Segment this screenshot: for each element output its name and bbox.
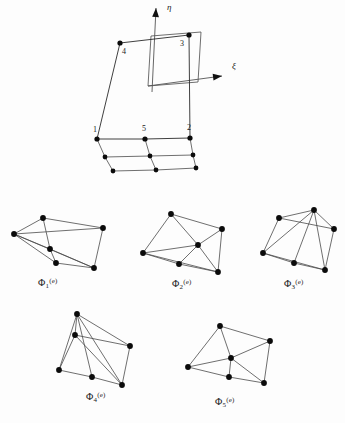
main-node-label-3: 3: [180, 39, 184, 48]
phi1-edge-1: [43, 218, 103, 228]
phi5-node-n3: [267, 338, 273, 344]
phi4-edge-4: [122, 346, 130, 385]
phi4-edge-2: [59, 370, 92, 377]
main-node-label-4: 4: [122, 47, 126, 56]
phi1-edge-0: [14, 218, 43, 234]
phi3-node-n2: [276, 215, 282, 221]
phi1-node-n4: [100, 225, 106, 231]
phi5-edge-1: [220, 326, 270, 341]
main-node-label-2: 2: [187, 123, 191, 132]
prism-node-0-1: [148, 154, 153, 159]
phi1-node-n3: [40, 215, 46, 221]
shape-function-plot-phi3-label: Φ3(e): [284, 278, 304, 291]
phi2-node-n3: [219, 226, 225, 232]
phi2-edge-1: [171, 214, 222, 229]
phi4-edge-7: [77, 314, 122, 385]
phi2-edge-2: [218, 229, 222, 272]
phi2-edge-5: [143, 245, 198, 253]
phi2-edge-9: [179, 245, 198, 264]
phi5-node-n2: [217, 323, 223, 329]
figure-canvas: ηξ15234: [0, 0, 345, 423]
phi5-edge-7: [231, 341, 270, 358]
phi3-edge-5: [279, 218, 334, 229]
phi4-node-n2: [74, 311, 80, 317]
phi3-node-n4: [331, 226, 337, 232]
axis-line-xi: [148, 76, 222, 86]
phi4-edge-10: [75, 335, 122, 385]
axis-label-eta: η: [167, 2, 172, 12]
phi3-edge-10: [294, 263, 325, 270]
phi5-edge-5: [220, 326, 231, 358]
phi2-node-n2: [168, 211, 174, 217]
shape-function-plot-phi3: [260, 207, 337, 273]
phi2-node-n6: [176, 261, 182, 267]
phi4-edge-5: [77, 314, 130, 346]
phi4-edge-6: [59, 314, 77, 370]
main-node-2: [187, 135, 192, 140]
phi2-edge-6: [198, 229, 222, 245]
phi5-node-n5: [228, 355, 234, 361]
phi3-node-n6: [291, 260, 297, 266]
phi2-edge-8: [143, 253, 179, 264]
axis-label-xi: ξ: [232, 61, 236, 71]
phi3-node-n1: [260, 250, 266, 256]
reference-square: [148, 32, 201, 86]
phi1-node-n5: [91, 265, 97, 271]
phi2-node-n5: [195, 242, 201, 248]
phi1-node-n2: [47, 246, 53, 252]
phi4-node-n5: [119, 382, 125, 388]
phi4-node-n1: [56, 367, 62, 373]
prism-node-1-1: [154, 168, 159, 173]
phi5-edge-4: [188, 367, 229, 377]
shape-function-plot-phi4-label: Φ4(e): [86, 391, 106, 404]
main-node-3: [186, 32, 191, 37]
prism-node-0-2: [191, 153, 196, 158]
phi2-edge-10: [179, 264, 218, 272]
main-node-4: [117, 40, 122, 45]
main-node-label-5: 5: [142, 124, 146, 133]
phi3-edge-9: [263, 253, 294, 263]
phi1-edge-5: [14, 228, 103, 234]
phi4-node-n3: [72, 332, 78, 338]
shape-function-plot-phi2: [140, 211, 225, 275]
phi1-node-n6: [53, 260, 59, 266]
shape-function-plot-phi2-label: Φ2(e): [172, 278, 192, 291]
shape-function-plot-phi5: [185, 323, 273, 386]
phi4-edge-1: [59, 335, 75, 370]
phi2-edge-0: [143, 214, 171, 253]
main-node-1: [94, 136, 99, 141]
phi4-node-n4: [127, 343, 133, 349]
main-diagram-layer: ηξ15234: [93, 2, 236, 173]
phi2-node-n1: [140, 250, 146, 256]
phi1-edge-2: [94, 228, 103, 268]
phi5-edge-8: [231, 358, 264, 383]
phi3-edge-3: [325, 229, 334, 270]
shape-function-plot-phi1-label: Φ1(e): [38, 277, 58, 290]
phi5-edge-2: [264, 341, 270, 383]
phi3-node-n3: [311, 207, 317, 213]
shape-function-plot-phi5-label: Φ5(e): [215, 396, 235, 409]
phi3-edge-0: [263, 218, 279, 253]
prism-node-0-0: [103, 155, 108, 160]
shape-function-plot-phi4: [56, 311, 133, 388]
phi2-edge-4: [171, 214, 198, 245]
axis-arrowhead-eta: [152, 8, 159, 17]
shape-function-plot-phi1: [11, 215, 106, 271]
phi1-node-n1: [11, 231, 17, 237]
phi3-node-n5: [322, 267, 328, 273]
shape-plots-layer: [11, 207, 337, 388]
axis-arrowhead-xi: [213, 74, 222, 81]
phi5-node-n6: [226, 374, 232, 380]
phi4-node-n6: [89, 374, 95, 380]
phi5-node-n4: [261, 380, 267, 386]
axis-line-eta: [152, 8, 156, 92]
prism-node-1-0: [111, 169, 116, 174]
phi3-edge-6: [263, 210, 314, 253]
phi1-edge-8: [43, 218, 50, 249]
phi5-node-n1: [185, 364, 191, 370]
main-node-label-1: 1: [93, 125, 97, 134]
prism-node-1-2: [194, 166, 199, 171]
phi5-edge-0: [188, 326, 220, 367]
phi2-node-n4: [215, 269, 221, 275]
phi5-edge-3: [229, 377, 264, 383]
